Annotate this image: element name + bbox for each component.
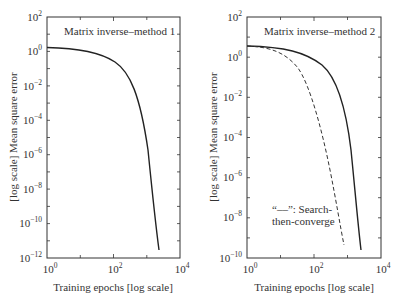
mse-curve-solid (47, 48, 159, 251)
svg-text:10−6: 10−6 (23, 146, 42, 160)
x-ticks (80, 17, 147, 258)
svg-text:10−10: 10−10 (19, 215, 42, 229)
svg-text:10−6: 10−6 (223, 169, 242, 183)
svg-text:102: 102 (227, 9, 242, 23)
y-axis-label: [log scale] Mean square error (7, 72, 19, 202)
panel-title: Matrix inverse–method 1 (64, 25, 175, 37)
svg-text:100: 100 (27, 43, 42, 57)
svg-text:104: 104 (175, 261, 190, 275)
svg-text:100: 100 (43, 261, 58, 275)
axes-frame (47, 17, 180, 258)
legend-annotation-line2: then-converge (272, 215, 335, 227)
svg-text:10−4: 10−4 (23, 112, 42, 126)
svg-text:10−10: 10−10 (219, 250, 242, 264)
panel-method-1: 102 100 10−2 10−4 10−6 10−8 10−10 10−12 … (7, 9, 190, 293)
svg-text:102: 102 (27, 9, 42, 23)
svg-text:10−8: 10−8 (223, 209, 242, 223)
y-axis-label: [log scale] Mean square error (207, 72, 219, 202)
svg-text:102: 102 (309, 261, 324, 275)
svg-text:100: 100 (243, 261, 258, 275)
legend-annotation-line1: “––”: Search- (272, 203, 332, 215)
svg-text:102: 102 (108, 261, 123, 275)
svg-text:100: 100 (227, 49, 242, 63)
panel-method-2: 102 100 10−2 10−4 10−6 10−8 10−10 100 10… (207, 9, 391, 293)
x-tick-labels: 100 102 104 (43, 261, 190, 275)
svg-text:10−4: 10−4 (223, 129, 242, 143)
svg-text:10−12: 10−12 (19, 250, 42, 264)
svg-text:10−2: 10−2 (23, 78, 42, 92)
x-axis-label: Training epochs [log scale] (254, 281, 374, 293)
figure: 102 100 10−2 10−4 10−6 10−8 10−10 10−12 … (0, 0, 396, 298)
y-ticks (47, 34, 180, 241)
svg-text:10−8: 10−8 (23, 181, 42, 195)
x-axis-label: Training epochs [log scale] (53, 281, 173, 293)
y-tick-labels: 102 100 10−2 10−4 10−6 10−8 10−10 10−12 (19, 9, 42, 264)
panel-title: Matrix inverse–method 2 (264, 25, 375, 37)
y-tick-labels: 102 100 10−2 10−4 10−6 10−8 10−10 (219, 9, 242, 264)
svg-text:104: 104 (376, 261, 391, 275)
x-tick-labels: 100 102 104 (243, 261, 391, 275)
svg-text:10−2: 10−2 (223, 89, 242, 103)
